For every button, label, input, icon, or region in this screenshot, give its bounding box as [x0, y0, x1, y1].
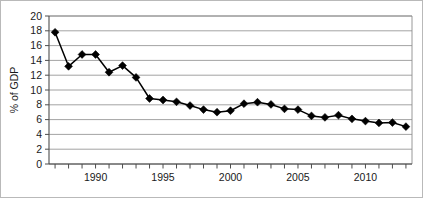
y-axis-title: % of GDP	[8, 67, 20, 114]
y-tick-label: 10	[30, 84, 42, 96]
x-tick-label: 1990	[84, 171, 108, 183]
data-point-marker	[51, 28, 59, 36]
x-tick-label: 2000	[219, 171, 243, 183]
data-point-marker	[227, 107, 235, 115]
data-point-marker	[267, 101, 275, 109]
x-tick-label: 1995	[151, 171, 175, 183]
data-point-marker	[200, 106, 208, 114]
data-point-marker	[375, 119, 383, 127]
y-axis	[45, 16, 49, 164]
y-tick-labels: 02468101214161820	[30, 10, 42, 170]
y-tick-label: 18	[30, 24, 42, 36]
data-point-marker	[240, 100, 248, 108]
y-axis-title-text: % of GDP	[8, 67, 20, 114]
data-point-marker	[186, 102, 194, 110]
y-tick-label: 20	[30, 10, 42, 22]
y-tick-label: 14	[30, 54, 42, 66]
chart-figure: 02468101214161820 19901995200020052010 %…	[0, 0, 423, 198]
line-chart: 02468101214161820 19901995200020052010 %…	[1, 1, 422, 197]
data-point-marker	[362, 117, 370, 125]
x-tick-label: 2010	[354, 171, 378, 183]
y-tick-label: 2	[36, 143, 42, 155]
y-tick-label: 6	[36, 113, 42, 125]
data-point-marker	[159, 96, 167, 104]
data-point-marker	[348, 115, 356, 123]
data-point-marker	[308, 112, 316, 120]
gridlines	[49, 16, 412, 164]
data-point-marker	[281, 105, 289, 113]
data-point-marker	[321, 113, 329, 121]
data-point-marker	[294, 106, 302, 114]
data-point-marker	[402, 123, 410, 131]
y-tick-label: 0	[36, 158, 42, 170]
y-tick-label: 12	[30, 69, 42, 81]
data-point-marker	[335, 111, 343, 119]
data-point-marker	[146, 95, 154, 103]
data-point-marker	[213, 108, 221, 116]
x-tick-label: 2005	[286, 171, 310, 183]
y-tick-label: 4	[36, 128, 42, 140]
y-tick-label: 8	[36, 98, 42, 110]
data-markers	[51, 28, 410, 130]
x-axis	[49, 164, 412, 169]
x-tick-labels: 19901995200020052010	[84, 171, 377, 183]
y-tick-label: 16	[30, 39, 42, 51]
